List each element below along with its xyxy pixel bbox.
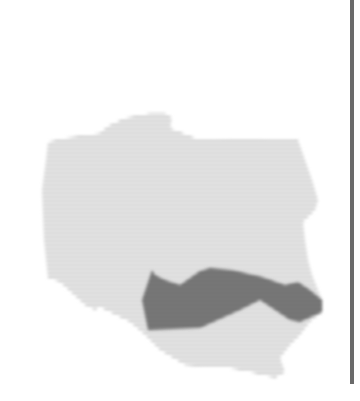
vertical-divider [350, 0, 354, 384]
map-container [0, 0, 360, 401]
country-poland [42, 113, 322, 378]
poland-map [0, 0, 360, 401]
